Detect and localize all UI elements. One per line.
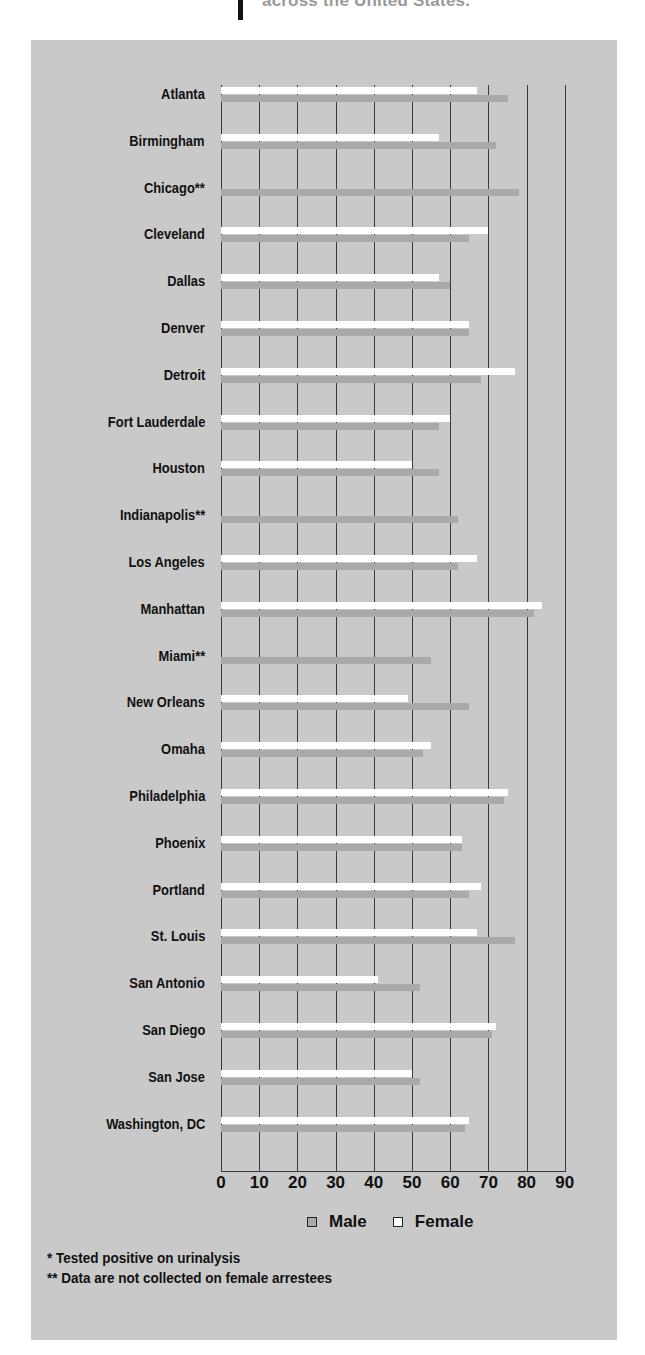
bar-female	[221, 461, 412, 468]
bar-male	[221, 937, 515, 944]
category-label: Houston	[153, 459, 205, 476]
gridline	[527, 85, 528, 1171]
category-label: Atlanta	[161, 85, 205, 102]
gridline	[221, 85, 222, 1171]
category-label: Los Angeles	[129, 553, 205, 570]
x-tick-label: 20	[288, 1173, 307, 1193]
gridline	[374, 85, 375, 1171]
bar-male	[221, 282, 450, 289]
category-label: Indianapolis**	[120, 506, 205, 523]
category-label: Phoenix	[155, 834, 205, 851]
category-label: Fort Lauderdale	[108, 413, 205, 430]
category-label: Denver	[161, 319, 205, 336]
bar-male	[221, 423, 439, 430]
bar-male	[221, 469, 439, 476]
category-label: Omaha	[161, 740, 205, 757]
bar-female	[221, 321, 469, 328]
category-label: Birmingham	[130, 132, 205, 149]
bar-female	[221, 789, 508, 796]
x-axis-line	[221, 1171, 566, 1172]
bar-female	[221, 695, 408, 702]
gridline	[488, 85, 489, 1171]
bar-female	[221, 1023, 496, 1030]
bar-female	[221, 976, 378, 983]
bar-male	[221, 1078, 420, 1085]
x-tick-label: 50	[403, 1173, 422, 1193]
x-tick-label: 10	[250, 1173, 269, 1193]
bar-female	[221, 415, 450, 422]
bar-female	[221, 87, 477, 94]
bar-male	[221, 984, 420, 991]
x-tick-label: 40	[364, 1173, 383, 1193]
bar-male	[221, 750, 423, 757]
bar-male	[221, 1031, 492, 1038]
bar-female	[221, 368, 515, 375]
bar-male	[221, 516, 458, 523]
category-label: Washington, DC	[106, 1115, 205, 1132]
bar-female	[221, 134, 439, 141]
bar-female	[221, 836, 462, 843]
top-marker	[238, 0, 243, 20]
x-tick-label: 0	[216, 1173, 225, 1193]
bar-male	[221, 610, 534, 617]
bar-male	[221, 376, 481, 383]
bar-male	[221, 1125, 465, 1132]
category-label: Portland	[153, 881, 205, 898]
bar-female	[221, 555, 477, 562]
category-label: Cleveland	[144, 225, 205, 242]
bar-male	[221, 95, 508, 102]
category-label: Philadelphia	[129, 787, 205, 804]
category-label: St. Louis	[151, 927, 205, 944]
category-label: New Orleans	[127, 693, 205, 710]
category-label: San Jose	[148, 1068, 205, 1085]
bar-female	[221, 1070, 412, 1077]
x-tick-label: 90	[555, 1173, 574, 1193]
footnotes: * Tested positive on urinalysis ** Data …	[47, 1248, 364, 1288]
bar-female	[221, 274, 439, 281]
category-label: San Diego	[142, 1021, 205, 1038]
gridline	[336, 85, 337, 1171]
bar-male	[221, 844, 462, 851]
gridline	[565, 85, 566, 1171]
female-swatch-icon	[393, 1217, 403, 1227]
x-tick-label: 30	[326, 1173, 345, 1193]
bar-male	[221, 563, 458, 570]
category-label: Manhattan	[141, 600, 206, 617]
bar-male	[221, 891, 469, 898]
bar-male	[221, 142, 496, 149]
footnote-2: ** Data are not collected on female arre…	[47, 1268, 332, 1288]
bar-female	[221, 1117, 469, 1124]
chart-panel: AtlantaBirminghamChicago**ClevelandDalla…	[31, 40, 617, 1340]
bar-female	[221, 929, 477, 936]
bar-female	[221, 227, 488, 234]
gridline	[450, 85, 451, 1171]
x-tick-label: 80	[517, 1173, 536, 1193]
legend-male-label: Male	[329, 1212, 367, 1232]
legend-item-male: Male	[307, 1212, 367, 1232]
bar-male	[221, 703, 469, 710]
x-tick-label: 70	[479, 1173, 498, 1193]
gridline	[259, 85, 260, 1171]
header-text: across the United States.	[262, 0, 470, 11]
legend-female-label: Female	[415, 1212, 474, 1232]
x-tick-label: 60	[441, 1173, 460, 1193]
male-swatch-icon	[307, 1217, 317, 1227]
bar-female	[221, 742, 431, 749]
footnote-1: * Tested positive on urinalysis	[47, 1248, 332, 1268]
category-label: Dallas	[167, 272, 205, 289]
bar-male	[221, 235, 469, 242]
bar-female	[221, 602, 542, 609]
bar-male	[221, 657, 431, 664]
category-label: San Antonio	[130, 974, 205, 991]
bar-female	[221, 883, 481, 890]
bar-male	[221, 329, 469, 336]
gridline	[297, 85, 298, 1171]
category-label: Chicago**	[144, 179, 205, 196]
category-label: Miami**	[158, 647, 205, 664]
legend-item-female: Female	[393, 1212, 474, 1232]
category-label: Detroit	[163, 366, 205, 383]
bar-male	[221, 189, 519, 196]
bar-male	[221, 797, 504, 804]
legend: Male Female	[307, 1212, 499, 1232]
gridline	[412, 85, 413, 1171]
